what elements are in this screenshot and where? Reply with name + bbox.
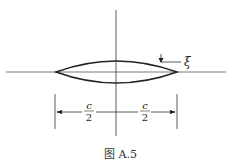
right-arrow-head-icon bbox=[170, 110, 176, 114]
figure-caption: 图 A.5 bbox=[0, 145, 241, 161]
right-fraction-denominator: 2 bbox=[142, 112, 148, 123]
left-fraction-denominator: 2 bbox=[86, 112, 92, 123]
thickness-label: ξ bbox=[184, 55, 192, 69]
left-arrow-head-icon bbox=[56, 110, 62, 114]
left-fraction-numerator: c bbox=[86, 100, 92, 111]
left-half-chord-label: c 2 bbox=[84, 100, 94, 123]
lens-airfoil-diagram: ξ c 2 c 2 bbox=[0, 0, 241, 168]
right-half-chord-label: c 2 bbox=[140, 100, 150, 123]
right-fraction-numerator: c bbox=[142, 100, 148, 111]
